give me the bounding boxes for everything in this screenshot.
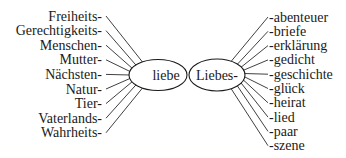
suffix-word: -glück — [269, 81, 305, 96]
prefix-word-list: Freiheits-Gerechtigkeits-Menschen-Mutter… — [16, 9, 103, 141]
connector-line — [106, 60, 131, 72]
suffix-word: -briefe — [269, 24, 306, 39]
suffix-word: -heirat — [269, 95, 306, 110]
prefix-word: Wahrheits- — [41, 125, 102, 140]
connector-line — [237, 86, 268, 132]
liebe-label: liebe — [152, 68, 179, 83]
suffix-word: -erklärung — [269, 38, 327, 53]
prefix-word: Natur- — [66, 82, 103, 97]
suffix-word: -szene — [269, 138, 305, 153]
connector-line — [106, 74, 130, 75]
connector-line — [243, 60, 268, 71]
suffix-word-list: -abenteuer-briefe-erklärung-gedicht-gesc… — [269, 10, 333, 154]
connector-line — [231, 17, 268, 62]
prefix-word: Tier- — [75, 96, 103, 111]
prefix-word: Nächsten- — [45, 67, 102, 82]
suffix-word: -paar — [269, 124, 298, 139]
connector-line — [244, 77, 268, 89]
connector-line — [106, 16, 143, 62]
prefix-word: Menschen- — [40, 38, 103, 53]
prefix-word: Vaterlands- — [38, 111, 102, 126]
connector-line — [244, 74, 268, 75]
word-formation-diagram: liebe Liebes- Freiheits-Gerechtigkeits-M… — [0, 0, 346, 158]
prefix-word: Gerechtigkeits- — [16, 23, 103, 38]
prefix-word: Freiheits- — [48, 9, 102, 24]
connector-line — [106, 78, 131, 89]
suffix-word: -lied — [269, 110, 295, 125]
liebes-label: Liebes- — [196, 68, 238, 83]
suffix-word: -gedicht — [269, 52, 315, 67]
suffix-word: -geschichte — [269, 67, 333, 82]
connector-line — [106, 88, 143, 133]
suffix-word: -abenteuer — [269, 10, 328, 25]
prefix-word: Mutter- — [60, 52, 103, 67]
